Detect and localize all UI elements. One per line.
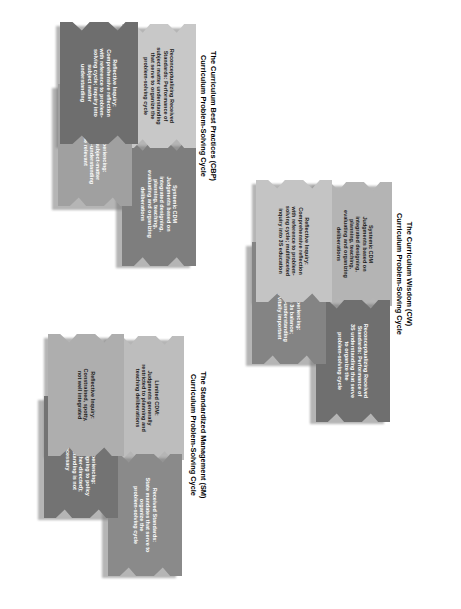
cw-block-reconceptualizing-received-standards[interactable]: Reconceptualizing Received Standards: Pe…	[316, 300, 390, 422]
cbp-caption: The Curriculum Best Practices (CBP) Curr…	[198, 28, 218, 204]
cw-block-systemic-cdm-label: Systemic CDM Judgments based on integrat…	[336, 189, 375, 299]
diagram-sm: Limited CDM: Judgments generally restric…	[36, 334, 186, 584]
cbp-block-reflective-inquiry-label: Reflective Inquiry: Comprehensive reflec…	[80, 29, 119, 137]
sm-block-received-standards[interactable]: Received Standards: State mandates that …	[108, 454, 182, 576]
cw-block-cluster: Systemic CDM Judgments based on integrat…	[242, 180, 394, 430]
sm-block-reflective-inquiry-label: Reflective Inquiry: Constrained, spotty,…	[76, 341, 95, 449]
cbp-block-cluster: Systemic CDM Judgments based on integrat…	[46, 22, 198, 272]
cw-block-reconceptualizing-received-standards-label: Reconceptualizing Received Standards: Pe…	[337, 307, 369, 415]
sm-block-received-standards-label: Received Standards: State mandates that …	[132, 461, 158, 569]
sm-block-cluster: Limited CDM: Judgments generally restric…	[36, 334, 186, 584]
diagram-cbp: Systemic CDM Judgments based on integrat…	[46, 22, 198, 272]
cbp-block-reconceptualizing-received-standards-label: Reconceptualizing Received Standards: Pe…	[143, 31, 175, 141]
cw-block-reflective-inquiry-label: Reflective Inquiry: Comprehensive reflec…	[278, 187, 310, 295]
cbp-block-reflective-inquiry[interactable]: Reflective Inquiry: Comprehensive reflec…	[60, 22, 138, 144]
sm-block-limited-cdm-label: Limited CDM: Judgments generally restric…	[134, 343, 160, 453]
cbp-block-systemic-cdm-label: Systemic CDM Judgments based on integrat…	[140, 149, 179, 259]
cw-block-reflective-inquiry[interactable]: Reflective Inquiry: Comprehensive reflec…	[256, 180, 332, 302]
diagram-cw: Systemic CDM Judgments based on integrat…	[242, 180, 394, 430]
cw-caption: The Curriculum Wisdom (CW) Curriculum Pr…	[394, 186, 414, 362]
sm-caption: The Standardized Management (SM) Curricu…	[188, 340, 208, 530]
cbp-block-systemic-cdm[interactable]: Systemic CDM Judgments based on integrat…	[122, 142, 196, 266]
sm-block-reflective-inquiry[interactable]: Reflective Inquiry: Constrained, spotty,…	[48, 334, 124, 456]
